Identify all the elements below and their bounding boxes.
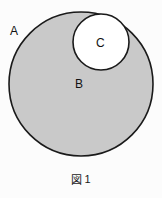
- set-label-c: C: [96, 37, 105, 49]
- figure-caption-glyph: 図: [71, 174, 83, 187]
- figure-container: A B C 図1: [0, 0, 162, 198]
- set-label-a: A: [10, 25, 18, 37]
- circle-diagram: [0, 0, 162, 198]
- set-label-b: B: [75, 78, 83, 90]
- figure-caption: 図1: [0, 173, 162, 187]
- figure-caption-number: 1: [84, 173, 91, 186]
